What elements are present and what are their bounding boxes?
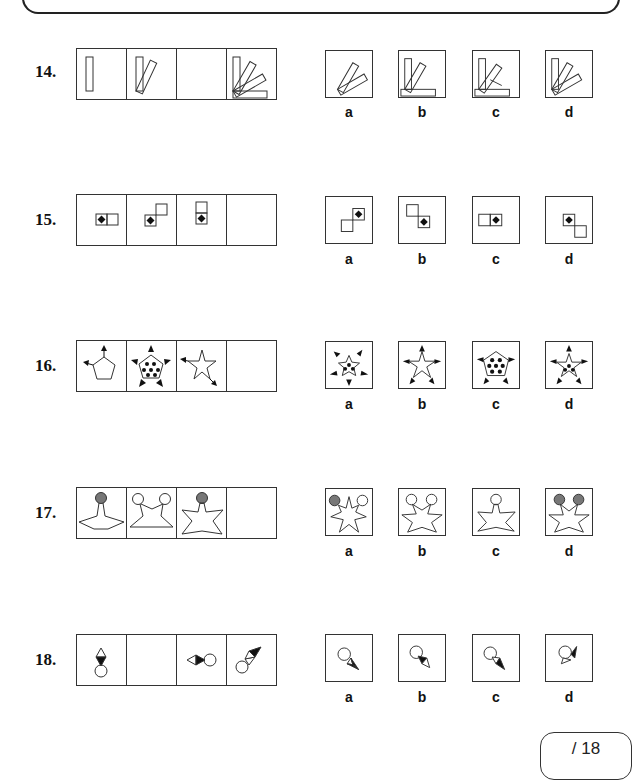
question-number-17: 17. <box>35 503 56 523</box>
question-number-16: 16. <box>35 356 56 376</box>
question-number-14: 14. <box>35 62 56 82</box>
option-16d[interactable] <box>545 341 593 389</box>
question-18-sequence <box>76 634 277 686</box>
option-label: c <box>472 543 520 559</box>
sequence-cell <box>177 635 227 685</box>
option-14b[interactable] <box>398 50 446 98</box>
option-18b[interactable] <box>398 634 446 682</box>
option-label: d <box>545 396 593 412</box>
option-label: c <box>472 689 520 705</box>
sequence-cell <box>127 341 177 391</box>
sequence-cell <box>127 49 177 99</box>
sequence-cell <box>227 635 276 685</box>
option-17a[interactable] <box>325 488 373 536</box>
sequence-cell-missing[interactable] <box>227 488 276 538</box>
header-frame <box>22 0 620 14</box>
question-number-15: 15. <box>35 210 56 230</box>
option-label: b <box>398 251 446 267</box>
sequence-cell-missing[interactable] <box>227 195 276 245</box>
option-15b[interactable] <box>398 196 446 244</box>
question-14-sequence <box>76 48 277 100</box>
option-label: c <box>472 104 520 120</box>
score-box: / 18 <box>540 732 632 780</box>
option-16a[interactable] <box>325 341 373 389</box>
option-label: a <box>325 104 373 120</box>
option-label: d <box>545 689 593 705</box>
option-label: d <box>545 543 593 559</box>
sequence-cell <box>127 488 177 538</box>
option-label: b <box>398 689 446 705</box>
question-number-18: 18. <box>35 650 56 670</box>
option-16b[interactable] <box>398 341 446 389</box>
option-label: a <box>325 251 373 267</box>
option-label: b <box>398 104 446 120</box>
sequence-cell <box>227 49 276 99</box>
option-label: d <box>545 104 593 120</box>
sequence-cell <box>177 341 227 391</box>
option-label: a <box>325 543 373 559</box>
option-label: a <box>325 396 373 412</box>
option-14d[interactable] <box>545 50 593 98</box>
option-label: c <box>472 396 520 412</box>
sequence-cell-missing[interactable] <box>127 635 177 685</box>
sequence-cell-missing[interactable] <box>227 341 276 391</box>
option-17c[interactable] <box>472 488 520 536</box>
question-15-sequence <box>76 194 277 246</box>
option-18a[interactable] <box>325 634 373 682</box>
question-16-sequence <box>76 340 277 392</box>
sequence-cell <box>77 488 127 538</box>
sequence-cell <box>77 635 127 685</box>
option-label: b <box>398 396 446 412</box>
sequence-cell <box>177 488 227 538</box>
option-17b[interactable] <box>398 488 446 536</box>
option-label: a <box>325 689 373 705</box>
option-15d[interactable] <box>545 196 593 244</box>
sequence-cell <box>77 195 127 245</box>
question-17-sequence <box>76 487 277 539</box>
sequence-cell <box>127 195 177 245</box>
option-15a[interactable] <box>325 196 373 244</box>
option-15c[interactable] <box>472 196 520 244</box>
sequence-cell <box>77 49 127 99</box>
option-18c[interactable] <box>472 634 520 682</box>
option-14c[interactable] <box>472 50 520 98</box>
option-label: b <box>398 543 446 559</box>
sequence-cell <box>77 341 127 391</box>
option-16c[interactable] <box>472 341 520 389</box>
option-18d[interactable] <box>545 634 593 682</box>
sequence-cell-missing[interactable] <box>177 49 227 99</box>
option-14a[interactable] <box>325 50 373 98</box>
option-17d[interactable] <box>545 488 593 536</box>
option-label: d <box>545 251 593 267</box>
option-label: c <box>472 251 520 267</box>
sequence-cell <box>177 195 227 245</box>
